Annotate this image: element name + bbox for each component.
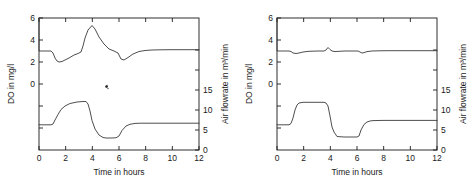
y-axis-label-right: Air flowrate in m³/min	[458, 44, 468, 124]
chart-svg-left: 0 2 4 6 8 10 12 6 4 2 0 15 10 5 0 Time i…	[0, 0, 238, 186]
y-tick-label-right: 10	[441, 105, 451, 115]
y-tick-label-right: 15	[441, 85, 451, 95]
x-tick-label: 0	[275, 153, 280, 163]
x-tick-label: 6	[355, 153, 360, 163]
speck-artifact-dot	[107, 88, 108, 89]
y-tick-label-left: 0	[30, 79, 35, 89]
y-tick-label-right: 5	[203, 125, 208, 135]
plot-frame	[39, 18, 199, 150]
x-tick-label: 10	[168, 153, 178, 163]
y-tick-label-left: 2	[30, 57, 35, 67]
y-tick-label-left: 2	[268, 57, 273, 67]
x-tick-label: 8	[381, 153, 386, 163]
x-tick-label: 4	[90, 153, 95, 163]
x-tick-label: 0	[37, 153, 42, 163]
y-tick-marks-right	[433, 50, 437, 150]
y-tick-marks-left	[277, 18, 281, 128]
airflow-curve	[277, 102, 437, 137]
y-axis-label-right: Air flowrate in m³/min	[220, 44, 230, 124]
x-tick-marks	[277, 18, 437, 150]
figure-container: 0 2 4 6 8 10 12 6 4 2 0 15 10 5 0 Time i…	[0, 0, 476, 186]
y-tick-label-left: 6	[30, 13, 35, 23]
airflow-curve	[39, 102, 199, 139]
x-tick-label: 6	[117, 153, 122, 163]
speck-artifact	[105, 85, 108, 88]
y-tick-label-left: 6	[268, 13, 273, 23]
y-tick-marks-left	[39, 18, 43, 128]
x-tick-label: 10	[406, 153, 416, 163]
y-tick-label-left: 0	[268, 79, 273, 89]
y-tick-label-left: 4	[30, 35, 35, 45]
plot-frame	[277, 18, 437, 150]
y-tick-label-right: 0	[203, 145, 208, 155]
y-tick-marks-right	[195, 50, 199, 150]
chart-svg-right: 0 2 4 6 8 10 12 6 4 2 0 15 10 5 0 Time i…	[238, 0, 476, 186]
y-tick-label-right: 0	[441, 145, 446, 155]
x-axis-label: Time in hours	[331, 167, 382, 177]
x-axis-label: Time in hours	[93, 167, 144, 177]
y-tick-label-left: 4	[268, 35, 273, 45]
x-tick-label: 2	[301, 153, 306, 163]
chart-panel-right: 0 2 4 6 8 10 12 6 4 2 0 15 10 5 0 Time i…	[238, 0, 476, 186]
y-axis-label-left: DO in mg/l	[6, 64, 16, 104]
x-tick-marks	[39, 18, 199, 150]
do-curve	[39, 18, 199, 62]
do-curve	[277, 18, 437, 54]
x-tick-label: 8	[143, 153, 148, 163]
y-tick-label-right: 15	[203, 85, 213, 95]
x-tick-label: 4	[328, 153, 333, 163]
y-tick-label-right: 10	[203, 105, 213, 115]
chart-panel-left: 0 2 4 6 8 10 12 6 4 2 0 15 10 5 0 Time i…	[0, 0, 238, 186]
y-axis-label-left: DO in mg/l	[244, 64, 254, 104]
y-tick-label-right: 5	[441, 125, 446, 135]
x-tick-label: 2	[63, 153, 68, 163]
